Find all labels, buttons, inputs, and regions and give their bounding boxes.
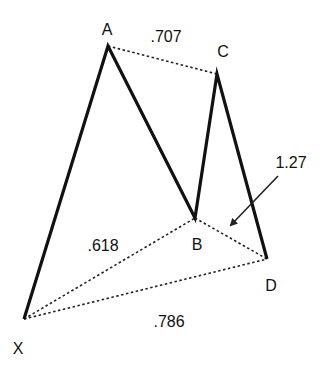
point-label-c: C bbox=[217, 44, 229, 60]
point-label-d: D bbox=[265, 278, 277, 294]
price-legs bbox=[24, 46, 267, 319]
ratio-label-xb: .618 bbox=[87, 238, 118, 254]
ratio-lines bbox=[24, 46, 267, 319]
ratio-label-xd: .786 bbox=[153, 314, 184, 330]
point-label-b: B bbox=[192, 237, 203, 253]
point-label-a: A bbox=[102, 22, 113, 38]
ratio-line-xd bbox=[24, 259, 267, 319]
ratio-label-ac: .707 bbox=[150, 29, 181, 45]
ratio-label-bd: 1.27 bbox=[275, 155, 306, 171]
point-label-x: X bbox=[13, 341, 24, 357]
harmonic-pattern-diagram: A B C D X .707 .618 .786 1.27 bbox=[0, 0, 326, 373]
xabcd-path bbox=[24, 46, 267, 319]
ratio-line-ac bbox=[108, 46, 217, 74]
